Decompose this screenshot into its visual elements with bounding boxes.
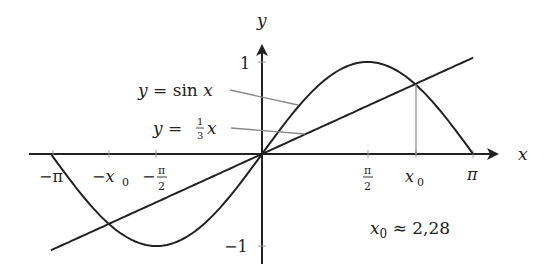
x0-approx-annotation: x0 ≈ 2,28	[370, 218, 450, 241]
x-tick-pi: π	[466, 165, 478, 184]
x-tick-neg-pi-half: − π 2	[142, 164, 167, 193]
x-tick-x0: x 0	[405, 167, 424, 189]
pi-half-num: π	[364, 164, 371, 177]
line-legend-label: y = 1 3 x	[152, 116, 217, 141]
y-tick-1: 1	[240, 54, 250, 73]
line-legend-x: x	[207, 118, 217, 138]
approx-text: x0 ≈ 2,28	[370, 218, 450, 241]
x-tick-neg-x0: −x 0	[92, 167, 129, 189]
line-legend-den: 3	[197, 130, 203, 141]
neg-x0-base: −x	[92, 167, 114, 186]
x-axis-label: x	[518, 144, 528, 164]
sin-legend-text: y = sin x	[137, 80, 213, 100]
plot-canvas: x y 1 −1 −π −x 0 − π 2 π 2 x 0 π y = sin…	[0, 0, 556, 269]
x-tick-neg-pi: −π	[39, 167, 63, 186]
neg-x0-subscript: 0	[122, 176, 129, 189]
x-tick-pi-half: π 2	[363, 164, 373, 193]
neg-pi-half-minus: −	[142, 167, 155, 186]
neg-pi-half-den: 2	[158, 180, 165, 193]
y-tick-neg1: −1	[224, 237, 248, 256]
sin-leader-line	[230, 90, 298, 105]
line-legend-prefix: y =	[152, 118, 182, 138]
sin-legend-label: y = sin x	[137, 80, 213, 100]
line-leader-line	[231, 128, 305, 134]
neg-pi-half-num: π	[158, 164, 165, 177]
y-axis-label: y	[256, 10, 267, 30]
pi-half-den: 2	[364, 180, 371, 193]
line-legend-num: 1	[197, 116, 203, 127]
x0-subscript: 0	[417, 176, 424, 189]
x0-base: x	[405, 167, 414, 186]
